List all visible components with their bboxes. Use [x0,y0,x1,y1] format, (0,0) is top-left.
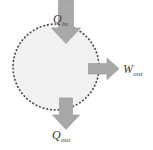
heat-out-label: Qout [52,129,70,141]
heat-engine-diagram: Qin Wout Qout [0,0,153,150]
work-out-symbol: W [123,62,133,76]
work-out-label: Wout [123,63,142,75]
work-out-subscript: out [133,70,142,78]
heat-in-subscript: in [62,20,68,28]
system-boundary-circle [13,24,99,110]
heat-in-symbol: Q [53,12,62,26]
heat-out-symbol: Q [52,128,61,142]
heat-out-subscript: out [61,136,70,144]
heat-in-label: Qin [53,13,67,25]
